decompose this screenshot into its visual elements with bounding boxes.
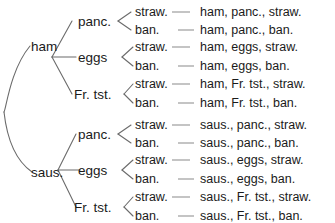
outcome-label: saus., Fr. tst., straw. <box>200 191 311 204</box>
outcome-label: ham, Fr. tst., ban. <box>200 97 297 110</box>
outcome-label: saus., Fr. tst., ban. <box>200 210 303 222</box>
leaf-label[interactable]: straw. <box>135 191 168 204</box>
leaf-label[interactable]: ban. <box>135 210 159 223</box>
outcome-label: ham, panc., straw. <box>200 6 301 19</box>
node-ham-panc[interactable]: panc. <box>78 15 111 28</box>
leaf-label[interactable]: ban. <box>135 60 159 73</box>
leaf-label[interactable]: straw. <box>135 119 168 132</box>
dash-separator <box>178 30 194 31</box>
outcome-label: saus., panc., ban. <box>200 137 299 150</box>
node-saus-eggs[interactable]: eggs <box>78 164 107 177</box>
outcome-label: saus., eggs, straw. <box>200 154 304 167</box>
node-ham-eggs[interactable]: eggs <box>78 51 107 64</box>
outcome-label: ham, eggs, ban. <box>200 60 290 73</box>
dash-separator <box>178 216 194 217</box>
leaf-label[interactable]: straw. <box>135 41 168 54</box>
outcome-label: ham, panc., ban. <box>200 24 293 37</box>
leaf-label[interactable]: ban. <box>135 24 159 37</box>
probability-tree-diagram: ham saus. panc. eggs Fr. tst. panc. eggs… <box>0 0 335 222</box>
dash-separator <box>172 160 190 161</box>
outcome-label: ham, Fr. tst., straw. <box>200 78 306 91</box>
leaf-label[interactable]: straw. <box>135 154 168 167</box>
node-saus-frtst[interactable]: Fr. tst. <box>74 201 112 214</box>
leaf-label[interactable]: ban. <box>135 137 159 150</box>
leaf-label[interactable]: ban. <box>135 173 159 186</box>
node-ham-frtst[interactable]: Fr. tst. <box>74 88 112 101</box>
dash-separator <box>172 197 190 198</box>
outcome-label: ham, eggs, straw. <box>200 41 298 54</box>
leaf-label[interactable]: straw. <box>135 6 168 19</box>
dash-separator <box>172 84 190 85</box>
leaf-label[interactable]: straw. <box>135 78 168 91</box>
dash-separator <box>178 179 194 180</box>
node-saus[interactable]: saus. <box>31 166 63 179</box>
outcome-label: saus., eggs, ban. <box>200 173 295 186</box>
dash-separator <box>178 66 194 67</box>
node-saus-panc[interactable]: panc. <box>78 128 111 141</box>
dash-separator <box>178 143 194 144</box>
dash-separator <box>172 12 190 13</box>
node-ham[interactable]: ham <box>31 40 57 53</box>
outcome-label: saus., panc., straw. <box>200 119 307 132</box>
dash-separator <box>172 125 190 126</box>
dash-separator <box>178 103 194 104</box>
leaf-label[interactable]: ban. <box>135 97 159 110</box>
dash-separator <box>172 47 190 48</box>
